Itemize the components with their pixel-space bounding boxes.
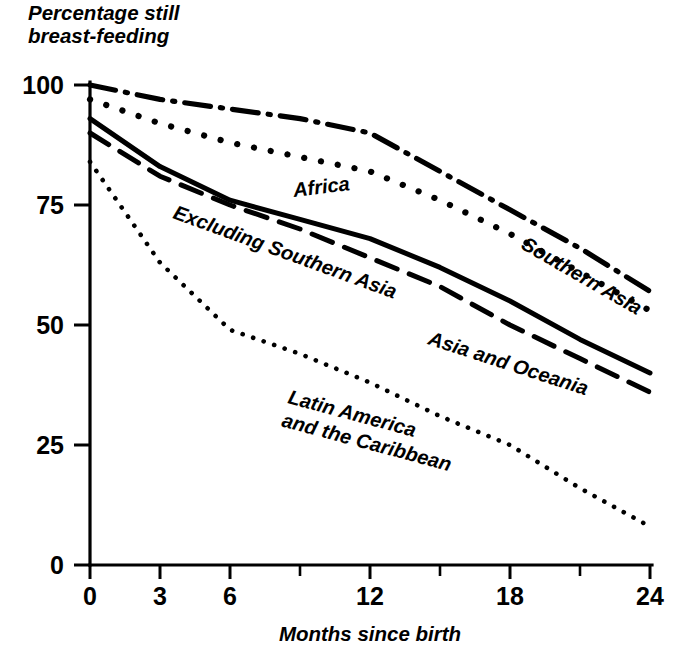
breastfeeding-line-chart: Percentage still breast-feeding 02550751… — [0, 0, 686, 666]
x-tick-label-6: 6 — [223, 582, 237, 610]
x-tick-label-0: 0 — [83, 582, 97, 610]
x-axis-tick-labels: 036121824 — [83, 582, 664, 610]
y-tick-label-25: 25 — [36, 431, 64, 459]
y-tick-label-75: 75 — [36, 191, 64, 219]
chart-canvas: Percentage still breast-feeding 02550751… — [0, 0, 686, 666]
x-tick-label-24: 24 — [636, 582, 664, 610]
x-tick-label-18: 18 — [496, 582, 524, 610]
y-axis-tick-labels: 0255075100 — [22, 71, 64, 579]
y-tick-label-0: 0 — [50, 551, 64, 579]
y-axis-ticks — [74, 85, 90, 565]
series-label-asia-and-oceania: Asia and Oceania — [425, 327, 591, 400]
series-label-latin-america-caribbean: Latin America and the Caribbean — [280, 386, 460, 476]
y-tick-label-50: 50 — [36, 311, 64, 339]
axes — [90, 82, 652, 565]
x-tick-label-12: 12 — [356, 582, 384, 610]
x-axis-title: Months since birth — [279, 622, 461, 645]
series-lines — [90, 85, 650, 527]
series-line-asia-and-oceania — [90, 119, 650, 373]
chart-title-line2: breast-feeding — [28, 24, 170, 47]
chart-title-line1: Percentage still — [28, 1, 181, 24]
series-label-africa: Africa — [291, 172, 351, 201]
x-axis-ticks — [90, 565, 650, 579]
x-tick-label-3: 3 — [153, 582, 167, 610]
y-tick-label-100: 100 — [22, 71, 64, 99]
series-labels: Southern Asia Africa Asia and Oceania Ex… — [171, 172, 646, 475]
